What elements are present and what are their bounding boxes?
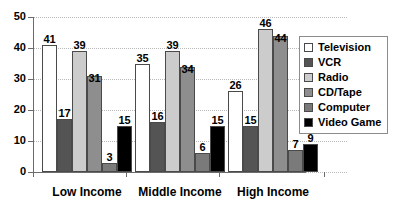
y-axis-tick-label: 20 [0, 104, 26, 115]
y-axis-tick-label: 30 [0, 73, 26, 84]
legend-label: CD/Tape [318, 87, 362, 98]
bar-value-label: 15 [118, 115, 130, 126]
bar: 15 [117, 126, 132, 173]
bar: 34 [180, 67, 195, 172]
bar-value-label: 15 [211, 115, 223, 126]
bar-value-label: 39 [166, 40, 178, 51]
bar: 35 [135, 64, 150, 173]
legend-item: CD/Tape [304, 85, 381, 100]
bar: 7 [288, 150, 303, 172]
bar-value-label: 31 [88, 73, 100, 84]
bar: 6 [195, 153, 210, 172]
bar: 44 [273, 36, 288, 172]
y-axis-tick-label: 50 [0, 11, 26, 22]
bar-value-label: 35 [136, 53, 148, 64]
bar: 39 [72, 51, 87, 172]
category-label: Middle Income [130, 186, 230, 198]
bar: 16 [150, 122, 165, 172]
bar: 17 [57, 119, 72, 172]
bar-value-label: 3 [106, 152, 112, 163]
bar: 46 [258, 29, 273, 172]
legend-swatch [304, 73, 313, 82]
x-axis-tick [324, 172, 325, 177]
bar-group: 35163934615 [135, 17, 225, 172]
legend-swatch [304, 118, 313, 127]
bar-chart: 01020304050 4117393131535163934615261546… [0, 0, 395, 212]
x-axis-tick [219, 172, 220, 177]
bar-value-label: 15 [244, 115, 256, 126]
y-axis-tick-label: 10 [0, 135, 26, 146]
bar: 26 [228, 91, 243, 172]
bar-value-label: 6 [199, 142, 205, 153]
legend-item: Television [304, 40, 381, 55]
bar: 15 [210, 126, 225, 173]
bar-group: 41173931315 [42, 17, 132, 172]
y-axis-tick-label: 40 [0, 42, 26, 53]
x-axis-tick [126, 172, 127, 177]
legend-swatch [304, 43, 313, 52]
bar: 3 [102, 163, 117, 172]
bar-value-label: 39 [73, 40, 85, 51]
bar: 41 [42, 45, 57, 172]
bar-value-label: 34 [181, 64, 193, 75]
legend-swatch [304, 58, 313, 67]
x-axis-tick [33, 172, 34, 177]
legend-item: VCR [304, 55, 381, 70]
legend-item: Radio [304, 70, 381, 85]
legend-swatch [304, 88, 313, 97]
bar: 9 [303, 144, 318, 172]
x-axis-line [33, 172, 306, 173]
bar: 39 [165, 51, 180, 172]
bar-value-label: 44 [274, 33, 286, 44]
bar-value-label: 17 [58, 108, 70, 119]
bar: 31 [87, 76, 102, 172]
legend-label: Video Game [318, 117, 381, 128]
legend-item: Video Game [304, 115, 381, 130]
legend-label: Television [318, 42, 371, 53]
legend-swatch [304, 103, 313, 112]
bar-value-label: 7 [292, 139, 298, 150]
y-axis-line [33, 17, 34, 173]
category-label: High Income [223, 186, 323, 198]
bar-value-label: 16 [151, 111, 163, 122]
legend-label: Computer [318, 102, 370, 113]
bar-value-label: 46 [259, 18, 271, 29]
legend: TelevisionVCRRadioCD/TapeComputerVideo G… [299, 36, 388, 134]
bar: 15 [243, 126, 258, 173]
bar-value-label: 41 [43, 34, 55, 45]
y-axis-tick-label: 0 [0, 166, 26, 177]
bar-value-label: 26 [229, 80, 241, 91]
bar-value-label: 9 [307, 133, 313, 144]
legend-label: VCR [318, 57, 341, 68]
category-label: Low Income [37, 186, 137, 198]
legend-item: Computer [304, 100, 381, 115]
legend-label: Radio [318, 72, 349, 83]
